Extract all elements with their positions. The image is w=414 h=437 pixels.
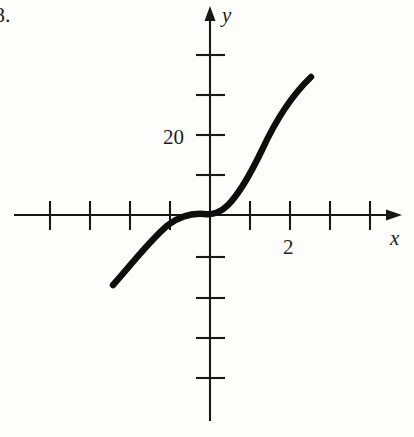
y-axis-arrow-icon (205, 6, 216, 21)
x-axis-arrow-icon (386, 210, 402, 221)
figure-page: 8. 20 2 y x (0, 0, 414, 437)
x-axis-label: x (389, 226, 400, 250)
x-axis-tick-label-2: 2 (283, 235, 294, 259)
y-axis-tick-label-20: 20 (163, 125, 184, 149)
y-axis-label: y (220, 3, 232, 27)
graph-figure: 20 2 y x (0, 0, 414, 437)
plotted-curve (113, 77, 311, 285)
